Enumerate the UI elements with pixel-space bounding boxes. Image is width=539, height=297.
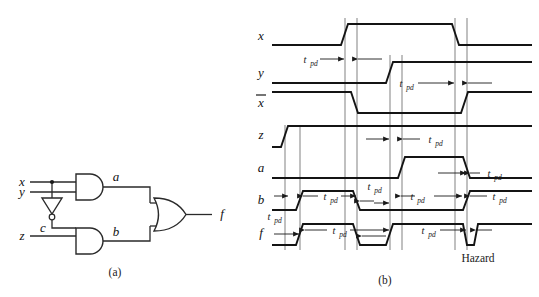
svg-text:pd: pd <box>309 59 318 68</box>
tpd-annotation-x: t pd <box>304 54 382 68</box>
timing-label-b: b <box>258 192 265 207</box>
circuit-label-a: a <box>113 169 120 184</box>
svg-text:pd: pd <box>498 196 507 205</box>
svg-text:pd: pd <box>338 230 347 239</box>
timing-diagram: x y x z a b f <box>256 18 532 287</box>
tpd-annotation-f-2: t pd <box>305 225 389 239</box>
or-gate-f-body <box>154 198 186 231</box>
svg-text:pd: pd <box>427 230 436 239</box>
tpd-annotation-b-1: t pd <box>274 191 356 205</box>
timing-label-xbar: x <box>257 95 264 110</box>
svg-text:t: t <box>268 211 272 222</box>
tpd-annotation-f-1: t pd <box>268 211 299 234</box>
junction-dot-x <box>50 180 54 184</box>
tpd-annotation-f-3: t pd <box>422 225 492 239</box>
and-gate-a-body <box>76 174 103 200</box>
figure-svg: x y z c a b f (a) x y <box>0 0 539 297</box>
wire-b <box>103 226 150 241</box>
timing-label-xbar-group: x <box>256 95 266 110</box>
hazard-label: Hazard <box>461 252 494 264</box>
circuit-label-y: y <box>17 184 25 199</box>
circuit-label-f: f <box>220 206 226 221</box>
svg-text:t: t <box>400 78 404 89</box>
caption-a: (a) <box>109 266 122 279</box>
circuit-label-c: c <box>40 220 46 235</box>
tpd-annotation-b-2: t pd <box>360 181 389 203</box>
tpd-annotation-z: t pd <box>366 134 443 148</box>
svg-text:t: t <box>493 191 497 202</box>
svg-text:t: t <box>304 54 308 65</box>
timing-label-x: x <box>257 28 264 43</box>
reference-lines <box>285 18 467 250</box>
timing-label-f: f <box>259 225 265 240</box>
svg-text:pd: pd <box>373 186 382 195</box>
wire-a <box>103 187 150 203</box>
svg-text:pd: pd <box>405 83 414 92</box>
timing-label-y: y <box>256 65 264 80</box>
svg-text:t: t <box>368 181 372 192</box>
circuit-label-z: z <box>18 228 24 243</box>
svg-text:pd: pd <box>416 196 425 205</box>
timing-label-a: a <box>258 160 265 175</box>
tpd-annotation-b-4: t pd <box>470 191 507 205</box>
circuit-label-b: b <box>113 224 120 239</box>
svg-text:t: t <box>324 191 328 202</box>
tpd-annotation-y: t pd <box>400 78 492 92</box>
svg-text:t: t <box>411 191 415 202</box>
inverter-bubble <box>49 214 55 220</box>
timing-label-z: z <box>257 127 263 142</box>
svg-text:pd: pd <box>434 139 443 148</box>
figure-root: x y z c a b f (a) x y <box>0 0 539 297</box>
wire-c <box>52 220 76 228</box>
svg-text:pd: pd <box>273 216 282 225</box>
and-gate-b-body <box>76 228 103 254</box>
tpd-annotation-b-3: t pd <box>401 191 462 205</box>
circuit-diagram: x y z c a b f (a) <box>17 169 226 279</box>
svg-text:t: t <box>422 225 426 236</box>
svg-text:t: t <box>429 134 433 145</box>
svg-text:pd: pd <box>493 173 502 182</box>
waveform-x <box>272 24 532 45</box>
caption-b: (b) <box>378 274 392 287</box>
svg-text:t: t <box>333 225 337 236</box>
svg-text:pd: pd <box>329 196 338 205</box>
inverter-body <box>42 198 62 214</box>
